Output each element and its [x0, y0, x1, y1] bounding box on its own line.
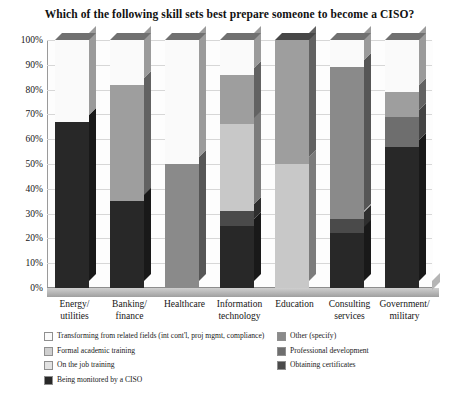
bar-group[interactable]: [220, 40, 254, 288]
legend-column-right: Other (specify)Professional developmentO…: [277, 331, 457, 375]
legend-swatch: [44, 376, 53, 385]
bar-segment[interactable]: [110, 85, 144, 202]
bar-segment-side-face: [364, 219, 371, 281]
legend-item[interactable]: Being monitored by a CISO: [44, 375, 276, 387]
bar-segment[interactable]: [385, 117, 419, 147]
y-axis-tick-label: 20%: [0, 233, 43, 243]
bar-segment[interactable]: [330, 40, 364, 67]
bar-top-face: [55, 33, 96, 40]
legend-item[interactable]: Professional development: [277, 346, 457, 358]
bar-segment[interactable]: [220, 75, 254, 125]
legend-label: Being monitored by a CISO: [57, 375, 142, 385]
bar-segment[interactable]: [110, 40, 144, 85]
x-axis-label-line: Education: [267, 299, 322, 311]
bar-segment-side-face: [89, 108, 96, 281]
x-axis-label-line: military: [377, 311, 432, 323]
legend-label: Professional development: [290, 346, 369, 356]
bar-segment-side-face: [254, 110, 261, 204]
bar-group[interactable]: [330, 40, 364, 288]
x-axis-label-line: Healthcare: [157, 299, 212, 311]
x-axis-tick-label: Banking/finance: [102, 299, 157, 322]
bar-segment-side-face: [144, 187, 151, 281]
bar-segment[interactable]: [330, 233, 364, 288]
bar-group[interactable]: [110, 40, 144, 288]
x-axis-label-line: Consulting: [322, 299, 377, 311]
bar-segment-side-face: [309, 150, 316, 281]
bar-segment-side-face: [309, 26, 316, 157]
bar-stack: [275, 40, 309, 288]
bar-segment[interactable]: [385, 147, 419, 288]
bar-stack: [165, 40, 199, 288]
bar-stack: [110, 40, 144, 288]
chart-legend: Transforming from related fields (int co…: [0, 331, 459, 391]
legend-item[interactable]: Obtaining certificates: [277, 360, 457, 372]
bar-group[interactable]: [275, 40, 309, 288]
bar-segment-side-face: [254, 61, 261, 118]
y-axis-tick-label: 60%: [0, 134, 43, 144]
bar-group[interactable]: [55, 40, 89, 288]
legend-swatch: [277, 332, 286, 341]
legend-label: Other (specify): [290, 331, 336, 341]
x-axis-tick-label: Education: [267, 299, 322, 311]
x-axis-tick-label: Informationtechnology: [212, 299, 267, 322]
bar-segment[interactable]: [165, 164, 199, 288]
y-axis-tick-label: 30%: [0, 209, 43, 219]
bar-group[interactable]: [165, 40, 199, 288]
bar-segment[interactable]: [330, 219, 364, 234]
legend-item[interactable]: On the job training: [44, 360, 276, 372]
x-axis-tick-label: Government/military: [377, 299, 432, 322]
chart-floor-slab: [47, 288, 439, 297]
y-axis-tick-label: 90%: [0, 60, 43, 70]
y-axis-tick-label: 50%: [0, 159, 43, 169]
legend-item[interactable]: Formal academic training: [44, 346, 276, 358]
bar-segment[interactable]: [330, 67, 364, 218]
legend-swatch: [44, 332, 53, 341]
x-axis-label-line: services: [322, 311, 377, 323]
x-axis-label-line: Government/: [377, 299, 432, 311]
y-axis-tick-label: 70%: [0, 109, 43, 119]
bar-segment-side-face: [364, 53, 371, 211]
bar-stack: [385, 40, 419, 288]
legend-label: Transforming from related fields (int co…: [57, 331, 264, 341]
bar-segment[interactable]: [55, 40, 89, 122]
x-axis-tick-label: Energy/utilities: [47, 299, 102, 322]
bar-segment[interactable]: [220, 226, 254, 288]
legend-swatch: [44, 361, 53, 370]
bar-segment-side-face: [254, 212, 261, 281]
bar-series-group: [47, 40, 432, 288]
bar-segment[interactable]: [385, 40, 419, 92]
bar-top-face: [220, 33, 261, 40]
bar-segment[interactable]: [385, 92, 419, 117]
legend-label: On the job training: [57, 360, 115, 370]
bar-top-face: [275, 33, 316, 40]
bar-segment[interactable]: [220, 124, 254, 211]
y-axis-tick-label: 10%: [0, 258, 43, 268]
bar-top-face: [385, 33, 426, 40]
bar-group[interactable]: [385, 40, 419, 288]
bar-segment[interactable]: [165, 40, 199, 164]
bar-segment[interactable]: [110, 201, 144, 288]
chart-container: Which of the following skill sets best p…: [0, 0, 459, 404]
bar-segment[interactable]: [275, 164, 309, 288]
x-axis-label-line: finance: [102, 311, 157, 323]
bar-top-face: [165, 33, 206, 40]
bar-top-face: [110, 33, 151, 40]
x-axis-label-line: utilities: [47, 311, 102, 323]
legend-item[interactable]: Other (specify): [277, 331, 457, 343]
x-axis-tick-label: Healthcare: [157, 299, 212, 311]
bar-segment[interactable]: [275, 40, 309, 164]
bar-top-face: [330, 33, 371, 40]
legend-swatch: [44, 347, 53, 356]
y-axis-tick-label: 40%: [0, 184, 43, 194]
legend-item[interactable]: Transforming from related fields (int co…: [44, 331, 276, 343]
bar-segment-side-face: [199, 150, 206, 281]
bar-segment-side-face: [419, 133, 426, 281]
y-axis-tick-label: 80%: [0, 85, 43, 95]
x-axis-label-line: Energy/: [47, 299, 102, 311]
legend-column-left: Transforming from related fields (int co…: [44, 331, 276, 389]
bar-segment[interactable]: [220, 211, 254, 226]
bar-segment[interactable]: [220, 40, 254, 75]
y-axis-labels: 0%10%20%30%40%50%60%70%80%90%100%: [0, 40, 43, 288]
legend-label: Formal academic training: [57, 346, 135, 356]
bar-segment[interactable]: [55, 122, 89, 288]
